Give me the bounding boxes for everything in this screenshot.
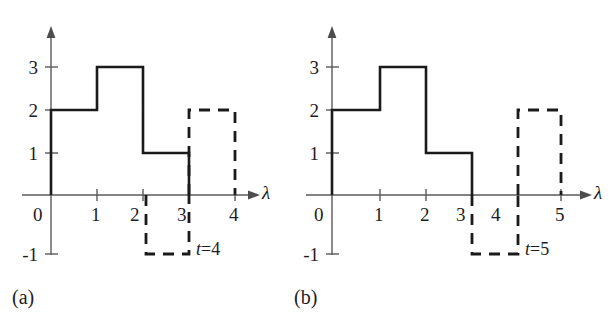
y-tick-label-2: 2: [291, 101, 319, 120]
dashed-positive-block-a: [189, 110, 235, 195]
x-axis-b: [306, 189, 592, 201]
time-equals-b: =: [530, 239, 540, 259]
x-tick-label-5: 5: [555, 205, 565, 224]
y-tick-label-1: 1: [10, 144, 38, 163]
x-tick-label-2: 2: [130, 205, 140, 224]
time-value-b: 5: [540, 239, 549, 259]
x-axis-a: [22, 189, 260, 201]
panel-a-plot-area: [0, 0, 306, 322]
y-tick-label-0: 0: [314, 205, 324, 224]
time-annotation-a: t=4: [196, 239, 220, 260]
y-tick-label-1: 1: [291, 144, 319, 163]
panel-b-plot-area: [306, 0, 612, 322]
subfigure-caption-a: (a): [12, 286, 34, 309]
figure-panel-b: 3 2 1 0 -1 1 2 3 4 5 λ t=5 (b): [306, 0, 612, 322]
x-axis-name-lambda: λ: [262, 182, 270, 204]
y-tick-label-3: 3: [291, 58, 319, 77]
figure-root: { "figure": { "axis_label_x": "\u03bb", …: [0, 0, 612, 322]
x-tick-label-1: 1: [374, 205, 384, 224]
time-value-a: 4: [211, 239, 220, 259]
x-tick-label-4: 4: [491, 205, 501, 224]
figure-panel-a: 3 2 1 0 -1 1 2 3 4 λ t=4 (a): [0, 0, 306, 322]
x-tick-label-3: 3: [177, 205, 187, 224]
solid-step-curve-a: [51, 67, 189, 195]
y-tick-label-0: 0: [33, 205, 43, 224]
dashed-positive-block-b: [518, 110, 561, 195]
time-equals-a: =: [201, 239, 211, 259]
y-tick-label-3: 3: [10, 58, 38, 77]
x-axis-name-lambda: λ: [594, 182, 602, 204]
y-tick-label-2: 2: [10, 101, 38, 120]
x-tick-label-4: 4: [229, 205, 239, 224]
time-annotation-b: t=5: [525, 239, 549, 260]
x-tick-label-1: 1: [91, 205, 101, 224]
solid-step-curve-b: [332, 67, 472, 195]
x-tick-label-3: 3: [456, 205, 466, 224]
x-tick-label-2: 2: [420, 205, 430, 224]
y-tick-label-neg1: -1: [286, 245, 319, 264]
y-tick-label-neg1: -1: [5, 245, 38, 264]
subfigure-caption-b: (b): [294, 286, 317, 309]
